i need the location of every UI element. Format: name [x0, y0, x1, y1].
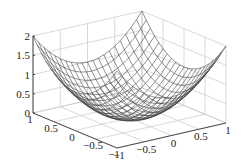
surface-plot: 00.511.5210.50−0.5−1−1−0.500.51	[0, 0, 245, 167]
x-tick-label: 1	[225, 124, 231, 136]
x-tick-label: 0	[171, 137, 177, 149]
y-tick-label: 0	[69, 131, 75, 143]
z-tick-label: 1.5	[16, 49, 30, 61]
mesh-line	[37, 20, 146, 72]
y-tick-label: 0.5	[44, 122, 58, 134]
y-tick-label: −0.5	[83, 139, 103, 151]
z-tick-label: 1	[25, 69, 31, 81]
x-tick-label: −0.5	[136, 143, 156, 155]
tick-labels: 00.511.5210.50−0.5−1−1−0.500.51	[16, 30, 231, 161]
z-tick-label: 0.5	[16, 88, 30, 100]
mesh-line	[41, 28, 150, 80]
x-tick-label: −1	[113, 149, 125, 161]
y-tick-label: 1	[27, 113, 33, 125]
z-tick-label: 2	[25, 30, 31, 42]
x-tick-label: 0.5	[194, 130, 208, 142]
mesh-line	[58, 54, 167, 106]
surface-mesh	[33, 11, 226, 121]
